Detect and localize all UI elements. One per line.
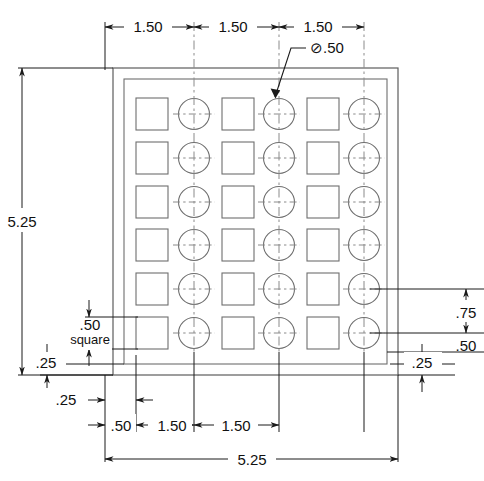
square-hole [307,273,339,305]
bottom-dim-1-label: 1.50 [157,417,186,434]
hole-pattern [136,98,380,349]
left-detail-dimension-group: .50 square .25 [28,300,138,392]
square-hole [136,273,168,305]
square-hole [222,273,254,305]
square-hole [307,229,339,261]
square-hole [307,186,339,218]
square-hole [222,142,254,174]
bottom-overall-label: 5.25 [237,451,266,468]
square-hole [222,98,254,130]
square-hole [307,317,339,349]
top-dim-2-label: 1.50 [218,18,247,35]
top-dim-1-label: 1.50 [133,18,162,35]
square-hole [222,186,254,218]
left-square-size-label: .50 [80,316,101,333]
plate-inner-outline [124,79,387,364]
left-inner-offset-label: .25 [36,354,57,371]
square-hole [136,186,168,218]
bottom-chain-dimension-group: .50 1.50 1.50 [88,352,364,462]
right-dim-075-label: .75 [456,304,477,321]
bottom-dim-2-label: 1.50 [221,417,250,434]
square-hole [136,317,168,349]
square-hole [222,317,254,349]
right-dim-050-label: .50 [456,337,477,354]
top-dim-3-label: 1.50 [303,18,332,35]
right-dim-025-label: .25 [412,354,433,371]
square-hole [136,142,168,174]
square-hole [136,229,168,261]
diameter-leader-group: ⊘.50 [271,39,344,99]
square-hole [307,142,339,174]
square-hole [307,98,339,130]
leader-line [275,48,306,97]
drawing-canvas: 1.50 1.50 1.50 ⊘.50 5.25 .50 squ [0,0,484,481]
diameter-leader-label: ⊘.50 [310,39,344,56]
square-hole [222,229,254,261]
bottom-edge-offset-label: .25 [56,391,77,408]
left-square-note-label: square [70,332,110,347]
left-overall-label: 5.25 [7,213,36,230]
square-hole [136,98,168,130]
technical-drawing-root: 1.50 1.50 1.50 ⊘.50 5.25 .50 squ [0,0,484,481]
bottom-dim-0-label: .50 [111,417,132,434]
